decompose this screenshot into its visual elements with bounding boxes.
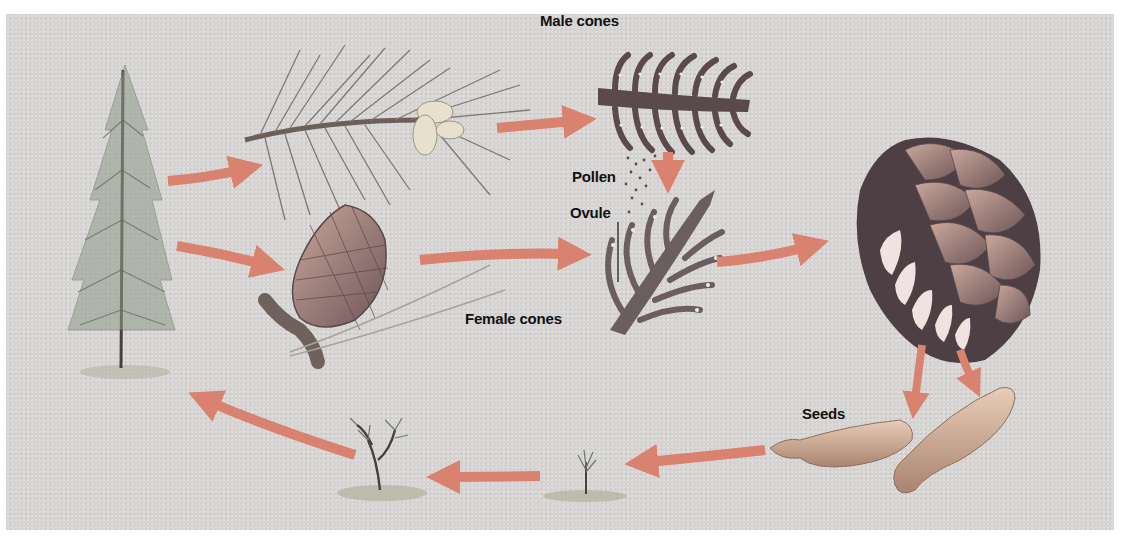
female-cone [265, 205, 505, 362]
female-cone-section [608, 190, 722, 335]
arrow-tree-to-female-cone [177, 246, 262, 264]
label-male-cones: Male cones [540, 12, 619, 29]
arrow-seedling-to-sapling [450, 476, 540, 477]
sapling [337, 418, 427, 501]
arrow-section-to-mature-cone [717, 247, 806, 262]
male-cone-section [598, 55, 750, 152]
pollen-grains [625, 155, 662, 214]
arrow-sapling-to-tree [210, 402, 355, 455]
mature-tree [68, 65, 175, 379]
arrow-seeds-to-seedling [648, 450, 765, 462]
branch-with-male-cones [245, 45, 530, 220]
arrow-tree-to-branch [168, 170, 240, 181]
arrow-branch-to-male-cone [497, 121, 573, 128]
label-ovule: Ovule [570, 204, 611, 221]
life-cycle-illustration [0, 0, 1129, 544]
label-pollen: Pollen [572, 168, 616, 185]
label-seeds: Seeds [802, 405, 845, 422]
arrow-cone-to-seed-1 [915, 345, 922, 400]
cycle-arrows [168, 121, 972, 477]
label-female-cones: Female cones [465, 310, 562, 327]
seedling [543, 450, 627, 502]
arrow-female-cone-to-section [420, 254, 568, 260]
seeds [770, 387, 1015, 493]
mature-cone-section [857, 138, 1041, 364]
